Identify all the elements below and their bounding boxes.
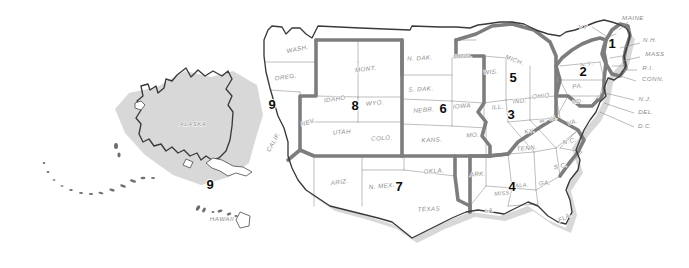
state-label-calif: CALIF.: [265, 131, 282, 153]
region-number-3: 3: [507, 107, 514, 122]
state-label-nebr: NEBR.: [413, 105, 435, 113]
callout-label-dc: D.C.: [638, 122, 652, 129]
leader-line-conn: [620, 76, 636, 81]
state-label-okla: OKLA.: [423, 166, 444, 174]
region-number-9: 9: [268, 97, 275, 112]
map-canvas: ALASKAHAWAIIWASH.OREG.CALIF.NEV.IDAHOMON…: [0, 0, 689, 268]
state-label-ark: ARK.: [468, 169, 486, 177]
callout-label-nh: N.H.: [643, 36, 657, 43]
state-label-hawaii: HAWAII: [210, 215, 234, 222]
state-label-sdak: S. DAK.: [408, 84, 434, 92]
region-number-4: 4: [508, 179, 516, 194]
callout-label-del: DEL.: [638, 108, 654, 115]
state-label-texas: TEXAS: [417, 204, 440, 212]
region-number-8: 8: [351, 98, 358, 113]
us-federal-regions-map: ALASKAHAWAIIWASH.OREG.CALIF.NEV.IDAHOMON…: [0, 0, 689, 268]
callout-label-vt: VT: [579, 23, 589, 30]
state-label-kans: KANS.: [421, 135, 442, 143]
region-number-7: 7: [395, 179, 402, 194]
aleutian-islands: [43, 143, 155, 195]
region-number-2: 2: [579, 64, 586, 79]
state-label-wis: WIS.: [483, 67, 499, 75]
state-label-mo: MO.: [466, 131, 480, 139]
state-label-ala: ALA.: [514, 181, 529, 188]
callout-label-nj: N.J.: [639, 95, 652, 102]
region-number-9-offshore: 9: [206, 177, 213, 192]
state-label-ind: IND.: [512, 96, 527, 104]
state-label-pa: PA.: [572, 81, 584, 89]
callout-label-mass: MASS: [645, 50, 665, 57]
callout-label-maine: MAINE: [622, 14, 644, 21]
state-label-iowa: IOWA: [453, 101, 472, 109]
state-label-minn: MINN.: [453, 51, 473, 59]
region-number-6: 6: [439, 101, 446, 116]
state-label-ndak: N. DAK.: [407, 53, 433, 61]
state-label-alaska: ALASKA: [179, 120, 207, 127]
leader-line-del: [604, 103, 634, 113]
state-label-la: LA.: [485, 207, 495, 214]
state-label-ga: GA.: [538, 178, 551, 186]
leader-line-dc: [600, 112, 634, 127]
region-number-5: 5: [509, 70, 516, 85]
callout-label-conn: CONN.: [642, 75, 664, 82]
state-label-ill: ILL.: [491, 102, 504, 110]
state-label-colo: COLO.: [371, 133, 393, 141]
region-number-1: 1: [608, 36, 615, 51]
callout-label-ri: R.I.: [642, 64, 653, 71]
